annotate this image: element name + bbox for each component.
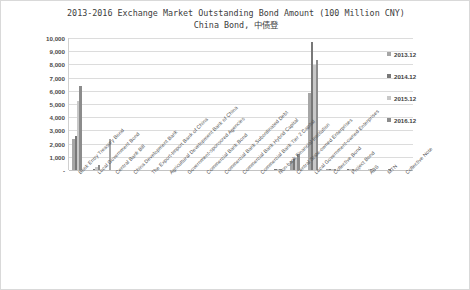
y-axis-tick-label: 6,000 (5, 87, 65, 94)
legend-swatch-icon (387, 96, 391, 100)
y-axis-tick-label: 10,000 (5, 35, 65, 42)
legend-item[interactable]: 2013.12 (387, 49, 416, 59)
y-axis-tick-label: 2,000 (5, 140, 65, 147)
bar-group (69, 38, 87, 170)
legend-item[interactable]: 2016.12 (387, 115, 416, 125)
legend-swatch-icon (387, 74, 391, 78)
legend-swatch-icon (387, 52, 391, 56)
chart-subtitle: China Bond, 中债登 (1, 19, 470, 31)
bar-group (360, 38, 378, 170)
x-axis-labels: Book Entry Treasury BondLocal Government… (68, 171, 413, 283)
chart-legend: 2013.122014.122015.122016.12 (387, 49, 467, 149)
y-axis-tick-label: 1,000 (5, 153, 65, 160)
chart-frame: 2013-2016 Exchange Market Outstanding Bo… (0, 0, 470, 290)
legend-item[interactable]: 2014.12 (387, 71, 416, 81)
y-axis-tick-label: 3,000 (5, 127, 65, 134)
y-axis-tick-label: 4,000 (5, 114, 65, 121)
chart-title: 2013-2016 Exchange Market Outstanding Bo… (1, 7, 470, 19)
y-axis-tick-label: 7,000 (5, 74, 65, 81)
y-axis-tick-label: 8,000 (5, 61, 65, 68)
legend-label: 2013.12 (394, 51, 416, 58)
legend-label: 2016.12 (394, 117, 416, 124)
legend-swatch-icon (387, 118, 391, 122)
bar[interactable] (79, 86, 81, 170)
chart-title-block: 2013-2016 Exchange Market Outstanding Bo… (1, 7, 470, 31)
y-axis-tick-label: 9,000 (5, 48, 65, 55)
legend-label: 2014.12 (394, 73, 416, 80)
y-axis-tick-label: 5,000 (5, 101, 65, 108)
legend-label: 2015.12 (394, 95, 416, 102)
y-axis-labels: 10,0009,0008,0007,0006,0005,0004,0003,00… (1, 38, 65, 170)
legend-item[interactable]: 2015.12 (387, 93, 416, 103)
y-axis-tick-label: - (5, 167, 65, 174)
